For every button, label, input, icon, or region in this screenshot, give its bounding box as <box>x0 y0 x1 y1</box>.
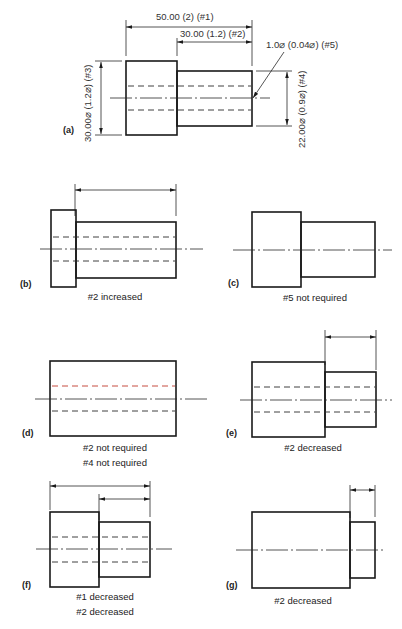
panel-c-tag: (c) <box>228 278 239 288</box>
panel-d-tag: (d) <box>22 428 34 438</box>
panel-g-caption: #2 decreased <box>258 593 348 608</box>
dim-small-diameter-label: 22.00⌀ (0.9⌀) (#4) <box>296 71 307 148</box>
panel-g-tag: (g) <box>226 580 238 590</box>
panel-g-drawing <box>236 485 384 588</box>
panel-e-tag: (e) <box>226 428 237 438</box>
panel-d-drawing <box>35 361 207 436</box>
dim-large-diameter-label: 30.00⌀ (1.2⌀) (#3) <box>82 65 93 142</box>
panel-e-drawing <box>240 330 392 437</box>
panel-f-caption: #1 decreased #2 decreased <box>60 589 150 619</box>
dim-hole-diameter-label: 1.0⌀ (0.04⌀) (#5) <box>266 40 338 50</box>
panel-f-drawing <box>36 481 172 587</box>
dim-overall-length-label: 50.00 (2) (#1) <box>156 12 214 22</box>
panel-a-tag: (a) <box>63 125 74 135</box>
dim-step-length-label: 30.00 (1.2) (#2) <box>180 29 245 39</box>
panel-b-drawing <box>40 184 203 287</box>
panel-c-caption: #5 not required <box>270 290 360 305</box>
panel-e-caption: #2 decreased <box>268 440 358 455</box>
technical-drawing-canvas <box>0 0 402 629</box>
panel-b-tag: (b) <box>20 279 32 289</box>
panel-d-caption: #2 not required #4 not required <box>65 440 165 470</box>
panel-b-caption: #2 increased <box>75 289 155 304</box>
panel-c-drawing <box>233 212 392 287</box>
panel-f-tag: (f) <box>22 580 31 590</box>
